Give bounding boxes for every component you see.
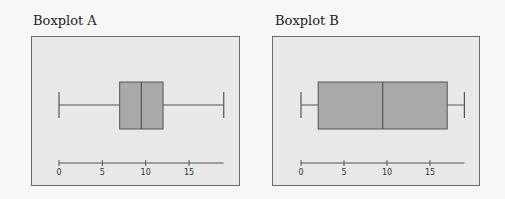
x-tick-label: 0	[298, 168, 303, 177]
x-tick-label: 10	[382, 168, 392, 177]
x-tick-label: 5	[341, 168, 346, 177]
x-tick-label: 15	[425, 168, 435, 177]
boxplot-b-chart: 051015	[0, 0, 505, 199]
